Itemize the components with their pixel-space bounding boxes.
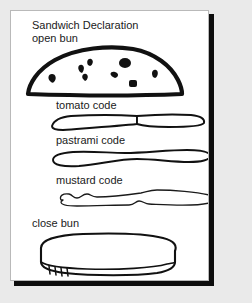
page-title: Sandwich Declaration [32, 19, 138, 31]
pastrami-illustration [49, 148, 209, 170]
open-bun-illustration [25, 44, 185, 98]
layer-label-open-bun: open bun [32, 32, 78, 44]
layer-label-mustard: mustard code [56, 174, 123, 186]
mustard-illustration [49, 187, 209, 211]
tomato-illustration [49, 112, 209, 134]
layer-label-tomato: tomato code [56, 99, 117, 111]
diagram-card: Sandwich Declaration open bun tomato cod… [10, 10, 209, 281]
close-bun-illustration [35, 232, 187, 280]
layer-label-pastrami: pastrami code [56, 134, 125, 146]
diagram-canvas: Sandwich Declaration open bun tomato cod… [0, 0, 252, 303]
layer-label-close-bun: close bun [32, 217, 79, 229]
